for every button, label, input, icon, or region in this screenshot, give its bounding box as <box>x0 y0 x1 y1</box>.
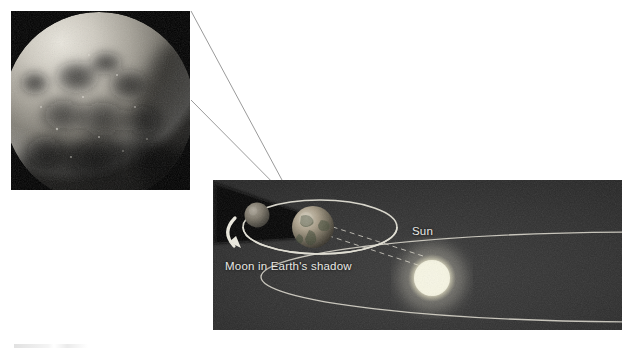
eclipsed-moon-photograph <box>11 11 190 190</box>
diagram-svg <box>213 180 622 330</box>
figure-root: Moon in Earth's shadow Sun <box>0 0 628 354</box>
lunar-eclipse-diagram: Moon in Earth's shadow Sun <box>213 180 622 330</box>
diagram-film-grain <box>213 180 622 330</box>
page-scan-artifact <box>14 344 88 348</box>
label-moon-in-earths-shadow: Moon in Earth's shadow <box>225 260 352 272</box>
label-sun: Sun <box>412 225 433 237</box>
moon-photo-svg <box>11 11 190 190</box>
photo-film-grain <box>11 11 190 190</box>
leader-line-top <box>191 11 296 206</box>
